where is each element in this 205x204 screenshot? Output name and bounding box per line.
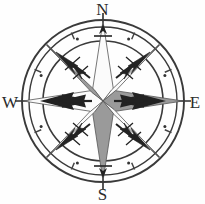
cardinal-label-north: N [0, 1, 205, 18]
cardinal-label-south: S [0, 186, 205, 203]
ring-dot [40, 125, 43, 128]
star-point-s [93, 101, 114, 181]
needle-southwest [56, 123, 90, 150]
needle-northwest [56, 52, 90, 79]
ring-dot [163, 125, 166, 128]
compass-rose-graphic [0, 0, 205, 204]
ring-dot [40, 74, 43, 77]
star-point-sw [47, 101, 103, 157]
ring-dot [127, 38, 130, 41]
ring-dot [163, 74, 166, 77]
star-point-ne [103, 45, 159, 101]
needle-northeast [116, 52, 150, 79]
cardinal-label-east: E [187, 94, 203, 111]
star-point-n [93, 21, 114, 101]
star-point-nw [47, 45, 103, 101]
compass-rose-figure: N E S W [0, 0, 205, 204]
star-point-se [103, 101, 159, 157]
needle-southeast [116, 123, 150, 150]
ring-dot [76, 38, 79, 41]
cardinal-label-west: W [2, 94, 18, 111]
ring-dot [76, 161, 79, 164]
ring-dot [127, 161, 130, 164]
